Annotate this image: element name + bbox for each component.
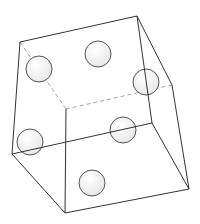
dot-1 xyxy=(26,56,52,82)
edge-AB xyxy=(20,16,137,42)
dot-2 xyxy=(85,41,111,67)
dot-5 xyxy=(110,117,136,143)
dots xyxy=(17,41,159,196)
edge-DG xyxy=(65,109,66,213)
dot-6 xyxy=(79,170,105,196)
dot-4 xyxy=(17,129,43,155)
cube-diagram xyxy=(0,0,200,224)
edge-FG xyxy=(12,154,65,213)
